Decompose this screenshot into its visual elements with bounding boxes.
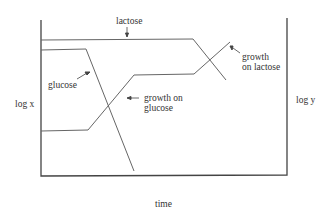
glucose-label: glucose [48,80,77,90]
y-left-axis-label: log x [15,99,35,109]
growth-lactose-label-2: on lactose [242,62,280,72]
growth-glucose-label-1: growth on [144,93,183,103]
x-axis-label: time [155,199,172,209]
lactose-arrow-icon [126,27,129,37]
lactose-curve [41,39,226,80]
lactose-label: lactose [116,16,142,26]
glucose-curve [41,49,134,171]
growth-glucose-arrow-icon [127,97,139,100]
glucose-arrow-icon [77,72,90,79]
growth-glucose-label-2: glucose [144,103,173,113]
y-right-axis-label: log y [296,95,316,105]
growth-lactose-arrow-icon [230,46,240,53]
diagram-canvas: lactose glucose growth on glucose growth… [0,0,326,212]
growth-lactose-label-1: growth [242,52,269,62]
